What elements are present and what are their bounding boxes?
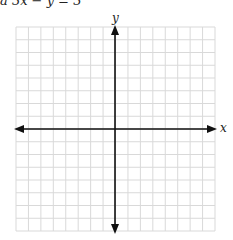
y-axis-label: y [112,11,119,25]
x-axis-label: x [220,121,227,135]
coordinate-grid [0,0,233,240]
y-axis-down-arrow-icon [111,224,119,234]
